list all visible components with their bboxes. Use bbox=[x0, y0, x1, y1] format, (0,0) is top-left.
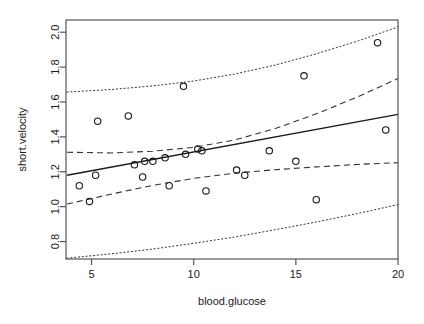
plot-root: 51015200.81.01.21.41.61.82.0blood.glucos… bbox=[0, 0, 424, 324]
plot-background bbox=[0, 0, 424, 324]
y-axis-tick-label: 1.0 bbox=[49, 199, 61, 214]
y-axis-tick-label: 2.0 bbox=[49, 25, 61, 40]
x-axis-title: blood.glucose bbox=[198, 295, 266, 307]
x-axis-tick-label: 20 bbox=[392, 268, 404, 280]
y-axis-tick-label: 1.6 bbox=[49, 94, 61, 109]
y-axis-tick-label: 1.8 bbox=[49, 59, 61, 74]
y-axis-tick-label: 0.8 bbox=[49, 234, 61, 249]
y-axis-tick-label: 1.2 bbox=[49, 164, 61, 179]
x-axis-tick-label: 15 bbox=[290, 268, 302, 280]
y-axis-title: short.velocity bbox=[16, 107, 28, 172]
x-axis-tick-label: 5 bbox=[88, 268, 94, 280]
y-axis-tick-label: 1.4 bbox=[49, 129, 61, 144]
scatter-plot: 51015200.81.01.21.41.61.82.0blood.glucos… bbox=[0, 0, 424, 324]
x-axis-tick-label: 10 bbox=[188, 268, 200, 280]
